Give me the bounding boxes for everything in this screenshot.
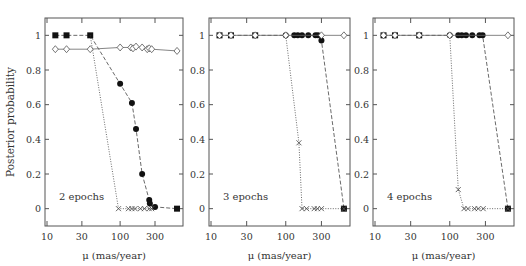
y-tick-label: 0.2	[190, 169, 205, 180]
y-tick-label: 0.6	[354, 99, 369, 110]
y-tick-label: 0.6	[190, 99, 205, 110]
square-marker	[64, 32, 70, 38]
cross-marker	[116, 206, 121, 211]
series-line-cross	[450, 35, 508, 208]
diamond-marker	[52, 46, 58, 53]
diamond-marker	[139, 44, 145, 51]
x-axis-label: μ (mas/year)	[248, 250, 312, 261]
x-tick-label: 300	[146, 231, 164, 242]
x-tick-label: 10	[369, 231, 381, 242]
y-tick-label: 0.4	[26, 134, 41, 145]
y-tick-label: 0.8	[26, 65, 41, 76]
panel-title: 4 epochs	[387, 191, 432, 202]
panel-3: 00.20.40.60.811030100300μ (mas/year)4 ep…	[354, 18, 514, 261]
y-axis-label: Posterior probability	[4, 67, 16, 177]
series-line-filled	[384, 35, 508, 208]
x-tick-label: 100	[441, 231, 459, 242]
series-line-cross	[90, 35, 151, 208]
square-marker	[174, 206, 180, 212]
x-tick-label: 30	[241, 231, 253, 242]
series-line-open	[55, 47, 177, 51]
y-tick-label: 0.2	[26, 169, 41, 180]
y-tick-label: 0.8	[190, 65, 205, 76]
x-tick-label: 300	[476, 231, 494, 242]
y-tick-label: 0.4	[354, 134, 369, 145]
y-tick-label: 1	[35, 30, 41, 41]
diamond-marker	[117, 44, 123, 51]
y-tick-label: 0	[199, 203, 205, 214]
y-tick-label: 0.4	[190, 134, 205, 145]
panel-title: 3 epochs	[223, 191, 268, 202]
y-tick-label: 0	[35, 203, 41, 214]
circle-marker	[147, 200, 153, 206]
diamond-marker	[447, 32, 453, 39]
diamond-marker	[283, 32, 289, 39]
y-tick-label: 0	[363, 203, 369, 214]
diamond-marker	[505, 32, 511, 39]
figure: Posterior probability 00.20.40.60.811030…	[0, 0, 526, 266]
x-tick-label: 30	[76, 231, 88, 242]
x-tick-label: 300	[312, 231, 330, 242]
panel-2: 00.20.40.60.811030100300μ (mas/year)3 ep…	[190, 18, 350, 261]
diamond-marker	[87, 46, 93, 53]
diamond-marker	[174, 47, 180, 54]
square-marker	[52, 32, 58, 38]
panel-title: 2 epochs	[59, 191, 104, 202]
x-tick-label: 10	[205, 231, 217, 242]
diamond-marker	[341, 32, 347, 39]
series-line-filled	[220, 35, 344, 208]
series-line-cross	[286, 35, 344, 208]
y-tick-label: 1	[363, 30, 369, 41]
circle-marker	[133, 126, 139, 132]
panel-1: 00.20.40.60.811030100300μ (mas/year)2 ep…	[26, 18, 183, 261]
y-tick-label: 0.6	[26, 99, 41, 110]
x-axis-label: μ (mas/year)	[412, 250, 476, 261]
x-tick-label: 100	[277, 231, 295, 242]
series-line-filled	[55, 35, 177, 208]
y-tick-label: 0.2	[354, 169, 369, 180]
x-tick-label: 30	[405, 231, 417, 242]
circle-marker	[139, 171, 145, 177]
y-tick-label: 0.8	[354, 65, 369, 76]
circle-marker	[117, 81, 123, 87]
x-tick-label: 10	[41, 231, 53, 242]
x-tick-label: 100	[111, 231, 129, 242]
diamond-marker	[64, 46, 70, 53]
circle-marker	[129, 100, 135, 106]
x-axis-label: μ (mas/year)	[82, 250, 146, 261]
y-tick-label: 1	[199, 30, 205, 41]
